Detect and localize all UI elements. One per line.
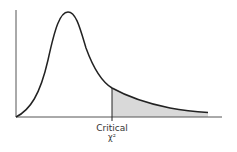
rejection-region — [112, 88, 208, 117]
chi-square-label: χ² — [82, 133, 142, 142]
chi-square-chart: Critical χ² — [0, 0, 237, 152]
critical-label: Critical — [82, 123, 142, 133]
